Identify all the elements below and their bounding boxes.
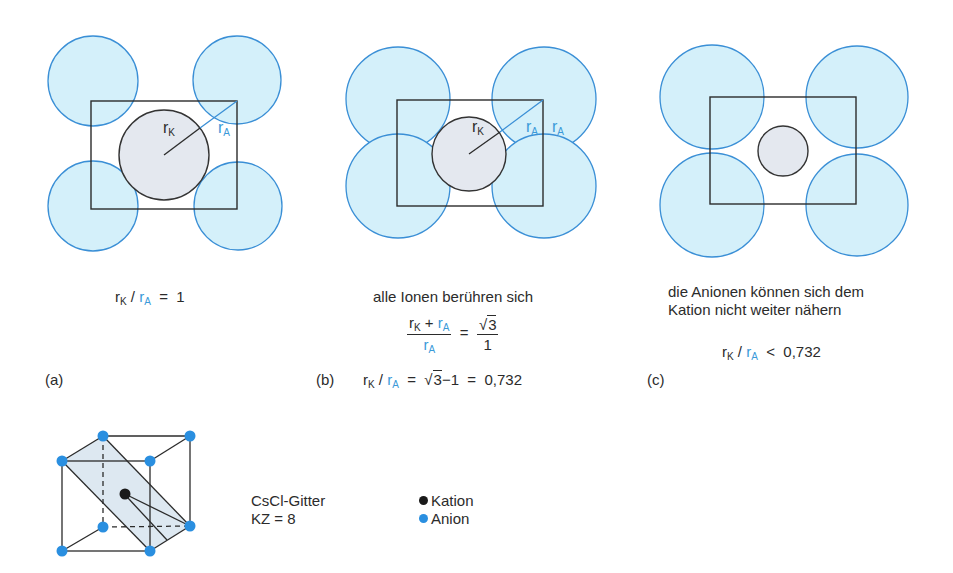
anion-atom <box>185 521 196 532</box>
anion-atom <box>98 431 109 442</box>
anion-radius-label: rA <box>526 118 538 137</box>
anion-radius-label: rA <box>552 118 564 137</box>
cube-edge <box>62 527 103 551</box>
panel-c-label: (c) <box>647 371 665 388</box>
kation-dot-icon <box>419 496 428 505</box>
anion-atom <box>145 546 156 557</box>
anion-circle <box>48 36 138 126</box>
cation-circle <box>758 126 808 176</box>
panel-b-label: (b) <box>316 371 334 388</box>
cscl-lattice-cube <box>57 431 196 557</box>
cation-atom <box>120 489 131 500</box>
panel-a-diagram <box>48 36 282 251</box>
cation-radius-label: rK <box>472 118 484 137</box>
anion-circle <box>806 154 908 256</box>
panel-c-caption-line2: Kation nicht weiter nähern <box>668 301 841 318</box>
panel-a-ratio: rK / rA = 1 <box>115 288 185 307</box>
lattice-name: CsCl-Gitter <box>251 492 325 509</box>
anion-atom <box>185 431 196 442</box>
panel-b-fraction-equation: rK + rA rA = √3 1 <box>407 314 498 355</box>
panel-c-ratio: rK / rA < 0,732 <box>722 343 821 362</box>
fraction-lhs: rK + rA rA <box>407 314 451 355</box>
anion-atom <box>57 456 68 467</box>
legend-item-kation: Kation <box>419 492 474 509</box>
fraction-rhs: √3 1 <box>477 316 499 353</box>
panel-c-caption-line1: die Anionen können sich dem <box>668 283 864 300</box>
panel-b-caption: alle Ionen berühren sich <box>373 288 533 305</box>
cation-radius-label: rK <box>163 119 175 138</box>
anion-atom <box>145 456 156 467</box>
legend-item-anion: Anion <box>419 510 469 527</box>
anion-atom <box>57 546 68 557</box>
anion-radius-label: rA <box>218 119 230 138</box>
anion-circle <box>660 153 764 257</box>
anion-atom <box>98 522 109 533</box>
panel-b-diagram <box>346 47 596 238</box>
panel-b-ratio: rK / rA = √3−1 = 0,732 <box>363 371 522 390</box>
cube-edge <box>150 436 190 461</box>
anion-dot-icon <box>419 514 428 523</box>
anion-circle <box>194 162 282 250</box>
anion-circle <box>492 134 596 238</box>
lattice-coordination: KZ = 8 <box>251 510 296 527</box>
panel-c-diagram <box>660 45 908 257</box>
panel-a-label: (a) <box>45 371 63 388</box>
